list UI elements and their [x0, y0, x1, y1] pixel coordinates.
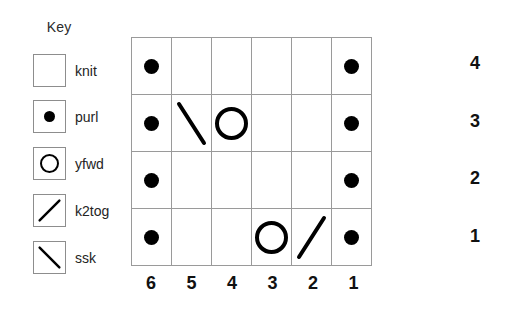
legend-swatch-yfwd [33, 147, 66, 180]
purl-dot-icon [332, 209, 371, 265]
legend-swatch-k2tog [33, 194, 66, 227]
chart-cell-knit[interactable] [252, 95, 292, 152]
chart-cell-purl[interactable] [132, 152, 172, 209]
purl-dot-icon [132, 38, 171, 94]
k2tog-slash-icon [34, 195, 65, 226]
chart-cell-yfwd[interactable] [252, 209, 292, 266]
chart-cell-purl[interactable] [332, 209, 372, 266]
knitting-chart-grid [131, 37, 372, 266]
column-number-label: 6 [131, 273, 171, 294]
row-number-label: 3 [462, 111, 488, 132]
chart-cell-knit[interactable] [212, 152, 252, 209]
purl-dot-icon [34, 101, 65, 132]
column-number-label: 3 [253, 273, 293, 294]
legend-item-purl: purl [33, 100, 98, 133]
chart-cell-knit[interactable] [172, 209, 212, 266]
chart-cell-purl[interactable] [332, 95, 372, 152]
purl-dot-icon [332, 38, 371, 94]
chart-row [132, 95, 372, 152]
chart-cell-knit[interactable] [172, 38, 212, 95]
legend-swatch-purl [33, 100, 66, 133]
k2tog-slash-icon [292, 209, 331, 265]
column-number-label: 2 [293, 273, 333, 294]
purl-dot-icon [332, 152, 371, 208]
chart-cell-knit[interactable] [252, 152, 292, 209]
column-number-label: 5 [172, 273, 212, 294]
chart-cell-k2tog[interactable] [292, 209, 332, 266]
chart-cell-purl[interactable] [332, 152, 372, 209]
legend-item-yfwd: yfwd [33, 147, 104, 180]
legend-label-purl: purl [75, 110, 98, 124]
legend-swatch-ssk [33, 241, 66, 274]
ssk-backslash-icon [172, 95, 211, 151]
column-number-label: 1 [334, 273, 374, 294]
chart-cell-knit[interactable] [212, 209, 252, 266]
chart-cell-knit[interactable] [292, 95, 332, 152]
chart-cell-knit[interactable] [292, 152, 332, 209]
row-number-label: 4 [462, 53, 488, 74]
chart-cell-knit[interactable] [172, 152, 212, 209]
legend-item-k2tog: k2tog [33, 194, 109, 227]
ssk-backslash-icon [34, 242, 65, 273]
yfwd-circle-icon [34, 148, 65, 179]
legend-item-ssk: ssk [33, 241, 96, 274]
chart-cell-knit[interactable] [292, 38, 332, 95]
legend-key: Key knit purl yfwd k2tog [0, 0, 131, 319]
legend-label-k2tog: k2tog [75, 204, 109, 218]
purl-dot-icon [132, 95, 171, 151]
purl-dot-icon [132, 209, 171, 265]
chart-cell-knit[interactable] [252, 38, 292, 95]
chart-cell-yfwd[interactable] [212, 95, 252, 152]
chart-cell-knit[interactable] [212, 38, 252, 95]
legend-label-knit: knit [75, 64, 97, 78]
chart-cell-purl[interactable] [132, 38, 172, 95]
legend-swatch-knit [33, 54, 66, 87]
chart-cell-ssk[interactable] [172, 95, 212, 152]
chart-cell-purl[interactable] [332, 38, 372, 95]
legend-label-yfwd: yfwd [75, 157, 104, 171]
row-number-label: 1 [462, 226, 488, 247]
chart-row [132, 152, 372, 209]
yfwd-circle-icon [212, 95, 251, 151]
chart-row [132, 209, 372, 266]
purl-dot-icon [332, 95, 371, 151]
legend-label-ssk: ssk [75, 251, 96, 265]
legend-item-knit: knit [33, 54, 97, 87]
chart-cell-purl[interactable] [132, 209, 172, 266]
legend-title: Key [0, 19, 118, 35]
chart-row [132, 38, 372, 95]
column-number-label: 4 [212, 273, 252, 294]
row-number-label: 2 [462, 168, 488, 189]
yfwd-circle-icon [252, 209, 291, 265]
chart-cell-purl[interactable] [132, 95, 172, 152]
purl-dot-icon [132, 152, 171, 208]
